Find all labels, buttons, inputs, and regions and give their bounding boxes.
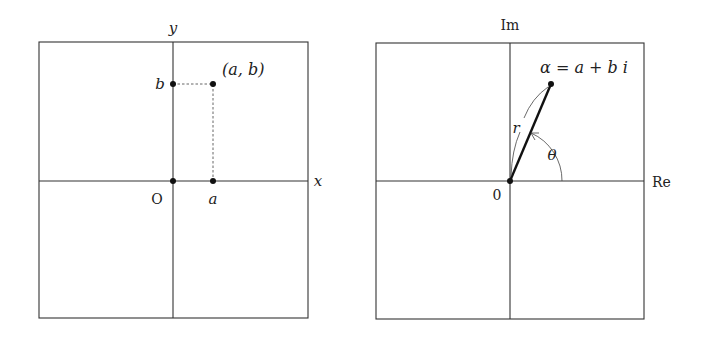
- point-a: [210, 178, 216, 184]
- a-label: a: [209, 190, 218, 208]
- point-ab: [210, 81, 216, 87]
- point-ab-label: (a, b): [222, 60, 264, 79]
- diagram-canvas: y x O a b (a, b) Im Re 0 α = a + b i r θ: [0, 0, 705, 348]
- y-axis-label: y: [168, 19, 178, 37]
- real-axis-label: Re: [652, 174, 671, 190]
- point-b: [170, 81, 176, 87]
- modulus-label: r: [512, 119, 520, 137]
- alpha-point: [548, 81, 554, 87]
- origin-label: O: [151, 191, 162, 207]
- alpha-label: α = a + b i: [540, 58, 628, 77]
- b-label: b: [155, 75, 165, 93]
- complex-origin-label: 0: [493, 187, 502, 203]
- argument-label: θ: [547, 146, 556, 164]
- imaginary-axis-label: Im: [501, 17, 520, 33]
- complex-plane-panel: Im Re 0 α = a + b i r θ: [376, 17, 671, 319]
- complex-origin-point: [507, 178, 513, 184]
- origin-point: [170, 178, 176, 184]
- projection-dashes: [173, 84, 213, 181]
- cartesian-plane-panel: y x O a b (a, b): [39, 19, 323, 318]
- x-axis-label: x: [314, 172, 323, 190]
